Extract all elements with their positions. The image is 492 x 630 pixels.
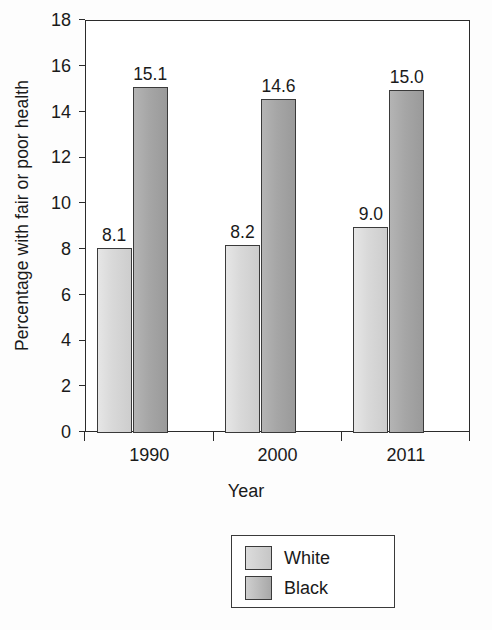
- y-tick-label: 6: [31, 284, 71, 305]
- bar-value-label: 14.6: [239, 76, 319, 97]
- legend-item-white: White: [245, 543, 394, 573]
- bar-black-2011[interactable]: [389, 90, 424, 433]
- legend-label-black: Black: [284, 579, 328, 597]
- y-tick-label: 14: [31, 101, 71, 122]
- x-tick-mark: [341, 432, 342, 441]
- x-tick-mark: [213, 432, 214, 441]
- x-tick-label: 2000: [218, 445, 338, 466]
- x-tick-label: 1990: [89, 445, 209, 466]
- legend-label-white: White: [284, 549, 330, 567]
- y-tick-label: 18: [31, 10, 71, 31]
- legend-swatch-white-icon: [245, 546, 272, 570]
- x-tick-mark: [84, 432, 85, 441]
- y-tick-label: 12: [31, 147, 71, 168]
- y-tick-label: 8: [31, 238, 71, 259]
- y-axis-title: Percentage with fair or poor health: [12, 1, 33, 431]
- y-tick-label: 2: [31, 376, 71, 397]
- y-tick-label: 4: [31, 330, 71, 351]
- y-tick-label: 16: [31, 55, 71, 76]
- bar-black-1990[interactable]: [133, 87, 168, 433]
- x-axis-title: Year: [0, 481, 492, 502]
- bar-white-2000[interactable]: [225, 245, 260, 433]
- plot-area: 8.115.18.214.69.015.0: [85, 20, 470, 432]
- x-tick-mark: [469, 432, 470, 441]
- legend-item-black: Black: [245, 573, 394, 603]
- y-tick-label: 10: [31, 193, 71, 214]
- bar-white-1990[interactable]: [97, 248, 132, 433]
- bar-chart-figure: Percentage with fair or poor health 0246…: [0, 0, 492, 630]
- y-tick-label: 0: [31, 422, 71, 443]
- chart-legend: White Black: [231, 535, 395, 608]
- bar-white-2011[interactable]: [353, 227, 388, 433]
- legend-swatch-black-icon: [245, 576, 272, 600]
- bar-value-label: 15.1: [110, 64, 190, 85]
- bar-value-label: 15.0: [367, 67, 447, 88]
- x-tick-label: 2011: [346, 445, 466, 466]
- bar-black-2000[interactable]: [261, 99, 296, 433]
